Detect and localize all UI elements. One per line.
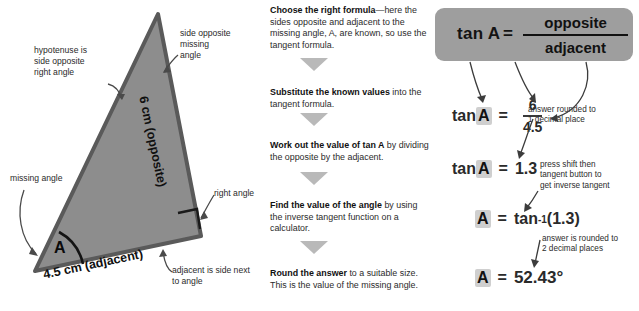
arrow-frac-to-13-head [517,150,525,159]
arrow-opposite-to-6 [515,62,534,99]
inverse-arg: (1.3) [547,210,580,228]
triangle-figure: hypotenuse is side opposite right angle … [0,0,268,311]
value-result: 1.3 [515,160,537,178]
substitute-lhs-var: A [476,107,492,125]
adjacent-note-arrowhead [159,249,167,257]
flow-arrow-down-icon [300,58,328,71]
inverse-lhs-var: A [475,210,491,228]
label-angle-a: A [54,239,66,257]
note-two-decimal-places: answer is rounded to 2 decimal places [542,234,634,255]
flow-arrow-down-icon [300,113,328,126]
step-item: Choose the right formula—here the sides … [270,5,430,51]
value-equals: = [499,160,508,178]
step-bold: Find the value of the angle [270,200,382,210]
substitute-lhs-pre: tan [452,107,476,125]
formula-fraction: opposite adjacent [523,12,628,58]
note-one-decimal-place: answer rounded to 1 decimal place [528,105,624,126]
step-bold: Round the answer [270,268,347,278]
annotation-side-opposite: side opposite missing angle [180,28,250,61]
formula-numerator: opposite [523,12,628,33]
missing-angle-arrow [20,190,36,254]
steps-column: Choose the right formula—here the sides … [270,0,430,311]
substitute-equals: = [499,107,508,125]
value-lhs-var: A [476,160,492,178]
answer-line: A = 52.43° [475,268,563,288]
step-item: Round the answer to a suitable size. Thi… [270,268,430,291]
inverse-equals: = [498,210,507,228]
step-bold: Substitute the known values [270,87,390,97]
step-item: Find the value of the angle by using the… [270,200,430,235]
value-line: tan A = 1.3 [452,160,537,178]
flow-arrow-down-icon [300,241,328,254]
answer-equals: = [498,269,507,287]
formula-denominator: adjacent [523,37,628,58]
arrow-tan-to-tan [470,62,482,99]
inverse-fn: tan [514,210,538,228]
answer-result: 52.43° [514,268,563,288]
annotation-adjacent: adjacent is side next to angle [172,265,268,287]
diagram-root: hypotenuse is side opposite right angle … [0,0,639,311]
tangent-formula-box: tan A = opposite adjacent [435,8,633,61]
flow-arrow-down-icon [300,172,328,185]
right-angle-arrowhead [200,211,208,220]
step-bold: Work out the value of tan A [270,140,384,150]
arrow-2dp-to-answer-head [531,259,539,268]
formula-equals: = [503,24,513,44]
step-item: Work out the value of tan A by dividing … [270,140,430,163]
annotation-hypotenuse: hypotenuse is side opposite right angle [34,45,118,78]
value-lhs-pre: tan [452,160,476,178]
arrow-shift-to-atan [526,191,538,209]
formula-lhs: tan A [457,24,500,44]
working-column: tan A = opposite adjacent tan A = 6 4.5 … [430,0,639,311]
annotation-missing-angle: missing angle [10,173,98,184]
answer-lhs-var: A [475,269,491,287]
inverse-line: A = tan-1 (1.3) [475,210,580,228]
fraction-bar [523,34,628,36]
step-bold: Choose the right formula [270,5,376,15]
inverse-exponent: -1 [538,214,547,225]
annotation-right-angle: right angle [214,188,274,199]
note-shift-key: press shift then tangent button to get i… [540,160,632,191]
arrow-2dp-to-answer [535,240,540,264]
step-item: Substitute the known values into the tan… [270,87,430,110]
